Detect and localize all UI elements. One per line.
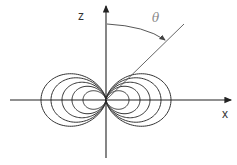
theta-label: θ [152,12,159,24]
diagram-canvas [0,0,237,165]
x-axis-label: x [222,108,228,120]
dipole-diagram: z x θ [0,0,237,165]
theta-arc [107,24,165,40]
z-axis-label: z [78,10,84,22]
